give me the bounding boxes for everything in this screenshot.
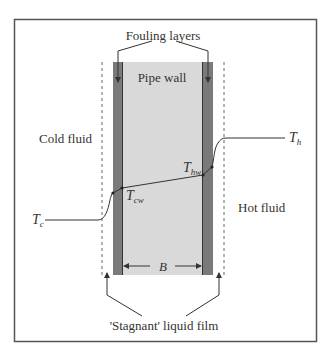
hot-fluid-label: Hot fluid <box>238 200 286 215</box>
film-arrow-left <box>107 273 142 316</box>
stagnant-film-label: 'Stagnant' liquid film <box>110 318 219 333</box>
cold-fluid-label: Cold fluid <box>39 131 93 146</box>
point-cold-fouling <box>111 191 114 194</box>
film-arrow-right <box>186 273 219 316</box>
fouling-layers-label: Fouling layers <box>126 28 201 43</box>
t-cold-label: Tc <box>32 212 44 229</box>
heat-transfer-diagram: Fouling layers Pipe wall Cold fluid Hot … <box>0 0 324 356</box>
point-hot-wall <box>201 173 204 176</box>
point-cold-wall <box>120 186 123 189</box>
t-hot-label: Th <box>289 130 302 147</box>
fouling-layer-cold <box>113 62 122 275</box>
pipe-wall-label: Pipe wall <box>138 70 187 85</box>
point-hot-fouling <box>210 165 213 168</box>
wall-thickness-label: B <box>159 259 167 274</box>
